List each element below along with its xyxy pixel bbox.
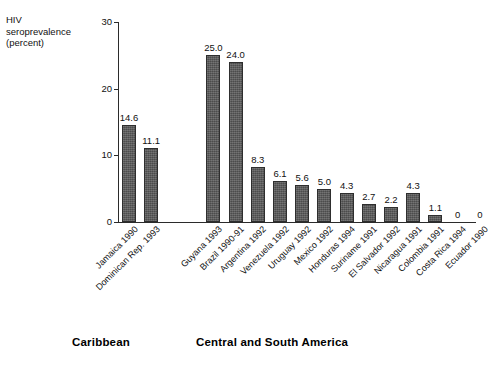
bar[interactable] [229,62,243,222]
bar-value-label: 6.1 [273,169,286,179]
bar-value-label: 0 [477,210,482,220]
bar-slot: 5.0 [317,22,331,222]
y-tick-label: 20 [88,84,112,94]
bar[interactable] [428,215,442,222]
bar[interactable] [206,55,220,222]
y-tick-mark [114,89,118,90]
bar-value-label: 0 [455,210,460,220]
bar-slot: 11.1 [144,22,158,222]
bar-value-label: 1.1 [429,203,442,213]
bar-slot: 25.0 [206,22,220,222]
group-caption-caribbean: Caribbean [72,336,130,348]
y-tick-label: 10 [88,150,112,160]
group-caption-central-south-america: Central and South America [196,336,348,348]
y-tick-mark [114,155,118,156]
y-tick-label: 0 [88,217,112,227]
y-axis-label: HIV seroprevalence (percent) [6,14,98,49]
bar[interactable] [144,148,158,222]
plot-area: 14.611.125.024.08.36.15.65.04.32.72.24.3… [118,22,476,222]
bar-value-label: 25.0 [204,43,223,53]
bar-value-label: 8.3 [251,155,264,165]
bar[interactable] [362,204,376,222]
bar-slot: 0 [473,22,487,222]
bar-value-label: 4.3 [407,181,420,191]
bar-slot: 24.0 [229,22,243,222]
bar-slot: 1.1 [428,22,442,222]
bar-slot: 0 [451,22,465,222]
bar[interactable] [406,193,420,222]
bar-value-label: 5.0 [318,177,331,187]
x-axis-category-labels: Jamaica 1990Dominican Rep. 1993Guyana 19… [118,224,478,320]
bar-value-label: 2.2 [384,195,397,205]
bar[interactable] [295,185,309,222]
bar-value-label: 24.0 [226,50,245,60]
bar[interactable] [317,189,331,222]
bar[interactable] [122,125,136,222]
y-tick-mark [114,22,118,23]
bar-value-label: 4.3 [340,181,353,191]
bar[interactable] [251,167,265,222]
bar-slot: 8.3 [251,22,265,222]
bar-value-label: 2.7 [362,192,375,202]
y-tick-label: 30 [88,17,112,27]
bar-slot: 4.3 [406,22,420,222]
y-tick-mark [114,222,118,223]
bars-container: 14.611.125.024.08.36.15.65.04.32.72.24.3… [118,22,476,222]
bar-value-label: 5.6 [296,173,309,183]
x-axis-line [118,222,476,223]
bar-slot: 5.6 [295,22,309,222]
bar[interactable] [273,181,287,222]
bar-slot: 2.7 [362,22,376,222]
bar[interactable] [340,193,354,222]
bar-slot: 14.6 [122,22,136,222]
bar[interactable] [384,207,398,222]
bar-value-label: 11.1 [142,136,160,146]
bar-value-label: 14.6 [120,113,139,123]
bar-slot: 2.2 [384,22,398,222]
bar-slot: 4.3 [340,22,354,222]
bar-slot: 6.1 [273,22,287,222]
